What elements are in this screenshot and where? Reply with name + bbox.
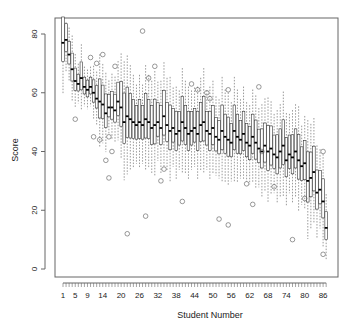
y-axis-title: Score [10,138,20,162]
box-student-63 [251,90,254,183]
outlier-point [88,55,93,60]
box-student-29 [147,75,150,168]
x-tick-label: 80 [300,291,309,300]
box-student-69 [270,101,273,194]
box-student-25 [135,85,138,164]
outlier-point [125,231,130,236]
box-student-60 [242,87,245,180]
x-tick-label: 44 [190,291,199,300]
outlier-point [159,179,164,184]
box-student-21 [123,61,126,180]
box-student-73 [282,92,285,198]
box-student-59 [239,99,242,178]
box-student-43 [190,90,193,169]
x-tick-label: 32 [153,291,162,300]
outlier-point [107,176,112,181]
box-student-31 [153,71,156,177]
y-tick-label: 20 [30,205,39,214]
x-tick-label: 14 [98,291,107,300]
x-tick-label: 74 [282,291,291,300]
box-student-62 [248,105,251,184]
outlier-point [257,85,262,90]
outlier-point [321,149,326,154]
x-tick-label: 1 [61,291,66,300]
x-axis: 15914202632384450566268748086 [61,283,328,300]
box-student-70 [273,114,276,193]
outlier-point [290,237,295,242]
box-student-79 [300,126,303,205]
box-student-22 [126,55,129,174]
box-student-38 [175,87,178,180]
box-student-18 [114,77,117,143]
box-student-42 [187,87,190,180]
outlier-point [73,117,78,122]
box-student-68 [267,97,270,203]
outlier-point [94,61,99,66]
box-student-23 [129,65,132,171]
outlier-point [226,223,231,228]
x-tick-label: 68 [264,291,273,300]
box-student-24 [132,75,135,168]
outlier-point [107,135,112,140]
box-student-56 [230,102,233,181]
box-student-67 [263,98,266,191]
outlier-point [321,252,326,257]
box-student-20 [120,53,123,159]
box-student-83 [312,118,315,224]
box-student-11 [92,66,95,119]
box-student-66 [260,104,263,197]
y-tick-label: 40 [30,147,39,156]
box-student-15 [104,73,107,152]
box-student-64 [254,95,257,188]
x-tick-label: 50 [208,291,217,300]
box-student-72 [279,104,282,197]
outlier-point [143,214,148,219]
box-student-8 [83,67,86,107]
box-student-32 [156,82,159,161]
box-student-47 [202,68,205,174]
outlier-point [113,64,118,69]
box-student-82 [309,124,312,230]
box-student-76 [291,110,294,203]
box-student-5 [74,54,77,107]
box-student-51 [215,96,218,175]
box-student-85 [319,149,322,228]
outlier-point [153,64,158,69]
box-student-46 [199,78,202,171]
box-student-86 [322,154,325,247]
box-student-26 [138,75,141,168]
box-student-13 [98,54,101,147]
box-student-16 [107,80,110,133]
x-tick-label: 9 [85,291,90,300]
box-student-4 [71,35,74,101]
outlier-point [91,135,96,140]
box-student-81 [306,120,309,239]
box-student-41 [184,81,187,174]
boxplot-chart: 020406080 15914202632384450566268748086 … [0,0,357,331]
x-tick-label: 56 [227,291,236,300]
box-student-33 [159,81,162,174]
box-student-27 [141,85,144,164]
y-tick-label: 60 [30,88,39,97]
box-student-14 [101,64,104,143]
box-student-28 [144,65,147,171]
x-tick-label: 38 [172,291,181,300]
box-student-77 [294,104,297,197]
box-student-50 [211,81,214,174]
x-axis-title: Student Number [177,310,243,320]
box-student-39 [178,90,181,169]
outlier-point [189,82,194,87]
y-tick-label: 0 [30,266,39,271]
box-student-2 [65,22,68,72]
box-student-84 [315,145,318,238]
box-student-80 [303,116,306,209]
outlier-point [180,199,185,204]
outlier-point [217,217,222,222]
x-tick-label: 26 [135,291,144,300]
box-student-3 [68,28,71,81]
box-student-9 [86,70,89,110]
box-student-53 [221,77,224,183]
box-student-87 [325,194,328,260]
outlier-point [226,88,231,93]
y-tick-label: 80 [30,29,39,38]
